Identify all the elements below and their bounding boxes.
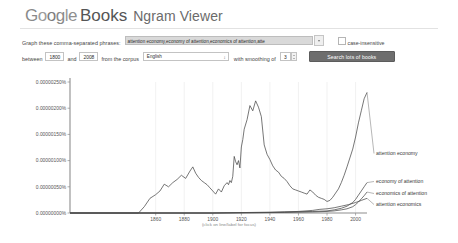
chart-line-attention-economy[interactable] [70,92,367,213]
x-tick-label[interactable]: 1940 [264,217,275,222]
logo-letter-g2: g [56,6,65,25]
y-tick-label: 0.00000100% [36,158,67,163]
legend-leader-line [367,192,374,193]
legend-label-attention-economics[interactable]: attention economics [376,201,422,207]
x-tick-label[interactable]: 2000 [350,217,361,222]
case-insensitive-checkbox[interactable] [338,37,346,45]
masthead: GoogleBooksNgram Viewer [25,6,223,26]
corpus-label: from the corpus [101,56,138,62]
ngram-viewer-page: GoogleBooksNgram Viewer Graph these comm… [0,0,458,243]
smoothing-label: with smoothing of [234,56,276,62]
product-title: Ngram Viewer [133,8,223,24]
chart-series-group[interactable] [70,92,367,213]
header-divider [20,28,438,29]
x-axis-ticks: 18601880190019201940196019802000 [150,213,361,222]
x-tick-label[interactable]: 1880 [179,217,190,222]
logo-letter-g1: G [25,6,38,25]
legend-label-economy-of-attention[interactable]: economy of attention [376,178,423,184]
between-label: between [22,56,42,62]
search-button[interactable]: Search lots of books [309,51,395,62]
smoothing-input[interactable]: 3 [280,52,291,61]
x-tick-label[interactable]: 1860 [150,217,161,222]
case-insensitive-label[interactable]: case-insensitive [348,40,385,46]
chart-legend[interactable]: attention economyeconomy of attentioneco… [367,92,427,207]
y-tick-label: 0.00000050% [36,185,67,190]
ngram-chart[interactable]: 0.00000000%0.00000050%0.00000100%0.00000… [0,74,458,234]
legend-leader-line [367,198,374,204]
x-tick-label[interactable]: 1980 [322,217,333,222]
chart-line-economics-of-attention[interactable] [70,192,367,213]
x-tick-label[interactable]: 1960 [293,217,304,222]
corpus-select-value: English [147,54,162,59]
legend-label-economics-of-attention[interactable]: economics of attention [376,190,427,196]
google-logo[interactable]: Google [25,6,77,26]
legend-leader-line [367,92,374,153]
corpus-select[interactable]: English↕ [143,52,229,61]
options-row: between1800and2008from the corpusEnglish… [22,47,395,65]
logo-letter-o1: o [38,6,47,25]
logo-letter-e: e [68,6,77,25]
y-axis-ticks: 0.00000000%0.00000050%0.00000100%0.00000… [36,80,70,216]
books-label[interactable]: Books [80,6,127,25]
chart-line-economy-of-attention[interactable] [70,183,367,213]
smoothing-stepper[interactable] [291,52,297,61]
y-tick-label: 0.00000000% [36,211,67,216]
phrases-label: Graph these comma-separated phrases: [22,40,121,46]
phrases-input[interactable]: attention economy,economy of attention,e… [125,36,313,45]
select-arrow-icon: ↕ [224,54,226,61]
chart-footnote: (click on line/label for focus) [202,222,257,227]
legend-label-attention-economy[interactable]: attention economy [376,150,418,156]
and-label: and [67,56,76,62]
y-tick-label: 0.00000200% [36,106,67,111]
start-year-input[interactable]: 1800 [45,52,64,61]
logo-letter-o2: o [47,6,56,25]
legend-leader-line [367,182,374,183]
y-tick-label: 0.00000150% [36,132,67,137]
y-tick-label: 0.00000250% [36,80,67,85]
chevron-down-icon[interactable] [314,35,324,46]
end-year-input[interactable]: 2008 [79,52,98,61]
